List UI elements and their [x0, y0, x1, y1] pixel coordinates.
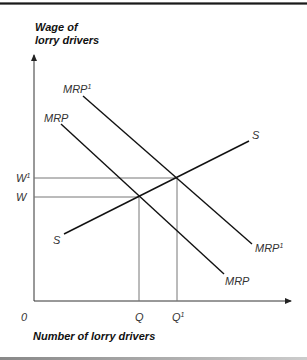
- y-axis-title-line2: lorry drivers: [35, 34, 99, 46]
- q1-tick-label: Q1: [172, 311, 185, 323]
- supply-label-top: S: [252, 129, 260, 141]
- mrp1-label-top: MRP1: [63, 83, 91, 95]
- w1-tick-label: W1: [16, 172, 30, 184]
- y-axis-title-line1: Wage of: [35, 21, 79, 33]
- mrp-label-bottom: MRP: [225, 275, 250, 287]
- supply-label-bottom: S: [53, 234, 61, 246]
- mrp1-label-bottom: MRP1: [255, 242, 283, 254]
- x-axis-title: Number of lorry drivers: [33, 330, 155, 342]
- mrp-curve: [61, 124, 224, 274]
- origin-label: 0: [21, 311, 28, 323]
- labour-market-diagram: Wage of lorry drivers MRP1 MRP MRP1 MRP …: [0, 0, 307, 360]
- w-tick-label: W: [16, 191, 28, 203]
- supply-curve: [64, 141, 249, 234]
- mrp-label-top: MRP: [44, 112, 69, 124]
- q-tick-label: Q: [135, 311, 144, 323]
